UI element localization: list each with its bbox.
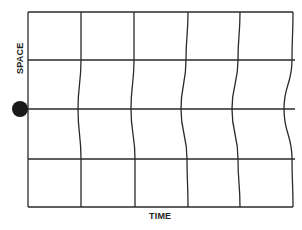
x-axis-label-time: TIME bbox=[149, 211, 171, 221]
y-axis-label-space: SPACE bbox=[15, 46, 25, 74]
spacetime-grid-diagram bbox=[0, 0, 302, 230]
wave-source-dot bbox=[12, 101, 28, 117]
grid bbox=[28, 12, 295, 207]
